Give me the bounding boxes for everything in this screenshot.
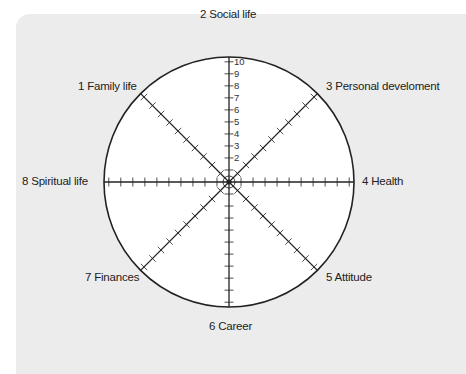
- segment-label-spiritual-life: 8 Spiritual life: [22, 175, 88, 187]
- center-dot: [227, 180, 232, 185]
- segment-label-career: 6 Career: [209, 320, 252, 332]
- scale-label: 7: [234, 92, 239, 103]
- scale-label: 8: [234, 80, 239, 91]
- scale-label: 6: [234, 104, 239, 115]
- scale-label: 9: [234, 68, 239, 79]
- scale-label: 2: [234, 152, 239, 163]
- segment-label-health: 4 Health: [362, 175, 403, 187]
- scale-label: 5: [234, 116, 239, 127]
- segment-label-finances: 7 Finances: [85, 271, 139, 283]
- scale-label: 10: [234, 56, 245, 67]
- segment-label-attitude: 5 Attitude: [326, 271, 372, 283]
- segment-label-family-life: 1 Family life: [78, 80, 137, 92]
- segment-label-personal-development: 3 Personal develoment: [326, 80, 439, 92]
- segment-label-social-life: 2 Social life: [200, 8, 256, 20]
- scale-label: 3: [234, 140, 239, 151]
- scale-label: 4: [234, 128, 239, 139]
